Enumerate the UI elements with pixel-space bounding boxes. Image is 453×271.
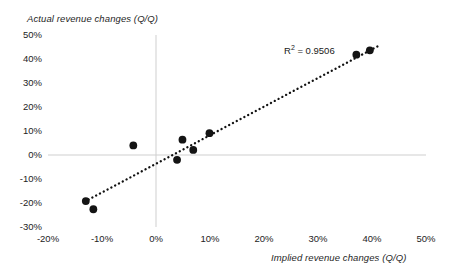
r-squared-suffix: = 0.9506: [295, 45, 335, 56]
data-point: [366, 46, 374, 54]
data-point: [129, 142, 137, 150]
trendline: [85, 47, 378, 202]
data-points: [82, 46, 374, 213]
r-squared-annotation: R2 = 0.9506: [284, 44, 335, 56]
r-squared-prefix: R: [284, 45, 291, 56]
data-point: [179, 136, 187, 144]
data-point: [352, 51, 360, 59]
data-point: [173, 156, 181, 164]
trendline-path: [85, 47, 378, 202]
data-point: [206, 129, 214, 137]
data-point: [189, 146, 197, 154]
plot-area: [0, 0, 453, 271]
data-point: [89, 205, 97, 213]
zero-lines: [48, 35, 426, 227]
scatter-chart: Actual revenue changes (Q/Q) Implied rev…: [0, 0, 453, 271]
data-point: [82, 197, 90, 205]
